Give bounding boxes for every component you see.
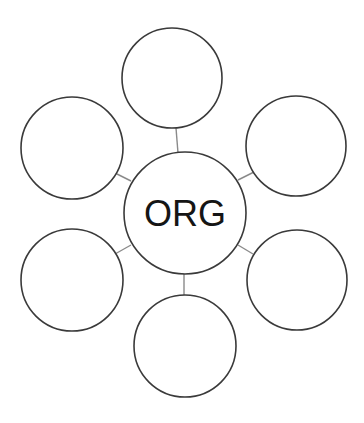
node-lower-left[interactable] [21,229,123,331]
node-bottom[interactable] [134,295,236,397]
node-lower-right[interactable] [247,230,347,330]
connector-lower-right [238,245,253,254]
connector-top [176,128,178,153]
node-lower-left-circle[interactable] [21,229,123,331]
org-spider-diagram: ORG [0,0,364,423]
connector-lower-left [115,245,131,254]
center-node[interactable]: ORG [124,152,246,274]
connector-upper-right [238,172,254,180]
node-upper-right-circle[interactable] [246,96,346,196]
node-upper-right[interactable] [246,96,346,196]
node-lower-right-circle[interactable] [247,230,347,330]
node-upper-left-circle[interactable] [21,97,123,199]
connector-upper-left [115,173,131,181]
center-node-label: ORG [144,193,226,234]
node-upper-left[interactable] [21,97,123,199]
node-top[interactable] [122,28,222,128]
node-bottom-circle[interactable] [134,295,236,397]
node-top-circle[interactable] [122,28,222,128]
